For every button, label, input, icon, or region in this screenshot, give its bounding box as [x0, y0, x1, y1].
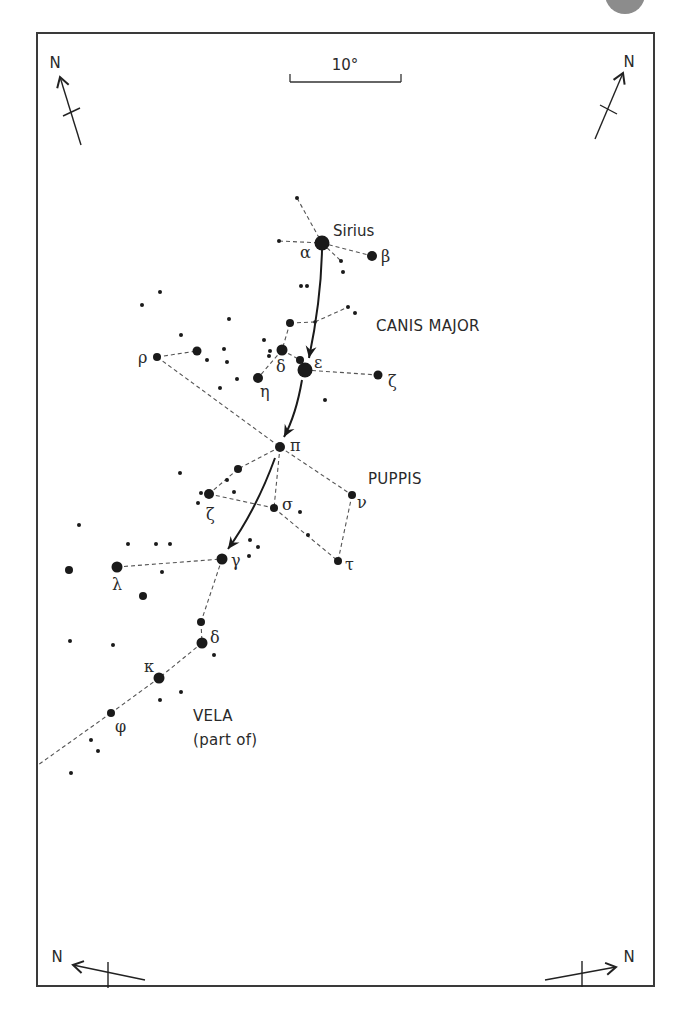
- star-dot: [217, 554, 228, 565]
- north-label: N: [51, 948, 62, 966]
- compass-bottom-left: N: [51, 948, 145, 988]
- star-dot: [267, 354, 271, 358]
- star-dot: [277, 345, 288, 356]
- star-dot: [196, 501, 200, 505]
- star-dot: [178, 471, 182, 475]
- chart-frame: [37, 33, 654, 986]
- star-dot: [89, 738, 93, 742]
- star-designation: ζ: [206, 505, 215, 524]
- star-dot: [197, 638, 208, 649]
- star-designation: π: [290, 436, 301, 455]
- star-dot: [346, 305, 350, 309]
- star-dot: [341, 270, 345, 274]
- star-dot: [296, 356, 304, 364]
- star-designation: σ: [282, 495, 293, 514]
- star-dot: [65, 566, 73, 574]
- star-designation: γ: [231, 551, 241, 570]
- star-dot: [199, 491, 203, 495]
- star-designation: ν: [357, 493, 367, 512]
- compass-top-left: N: [49, 54, 81, 145]
- constellation-line: [297, 198, 322, 243]
- star-dot: [153, 353, 161, 361]
- constellation-name: PUPPIS: [368, 470, 422, 488]
- star-dot: [212, 653, 216, 657]
- constellation-name: CANIS MAJOR: [376, 317, 480, 335]
- star-dot: [158, 290, 162, 294]
- star-dot: [77, 523, 81, 527]
- star-dot: [232, 490, 236, 494]
- north-label: N: [623, 53, 634, 71]
- star-dot: [126, 542, 130, 546]
- star-dot: [348, 491, 356, 499]
- star-dot: [295, 196, 299, 200]
- constellation-name: (part of): [193, 731, 257, 749]
- star-dot: [205, 358, 209, 362]
- constellation-line: [111, 678, 159, 713]
- star-dot: [179, 333, 183, 337]
- star-dot: [306, 533, 310, 537]
- star-dot: [234, 465, 242, 473]
- hop-arrow: [309, 250, 322, 358]
- constellation-line: [238, 447, 280, 469]
- star-dot: [313, 320, 317, 324]
- star-designation: κ: [144, 657, 154, 676]
- star-designation: α: [300, 243, 311, 262]
- star-dot: [235, 377, 239, 381]
- star-dot: [158, 698, 162, 702]
- star-dot: [305, 284, 309, 288]
- constellation-line: [315, 307, 348, 322]
- constellation-line: [117, 559, 222, 567]
- star-dot: [270, 504, 278, 512]
- star-dot: [193, 347, 202, 356]
- star-dot: [197, 618, 205, 626]
- constellation-line: [338, 495, 352, 561]
- scale-label: 10°: [332, 56, 359, 74]
- constellation-line: [209, 494, 274, 508]
- star-dot: [218, 386, 222, 390]
- star-dot: [168, 542, 172, 546]
- star-dot: [298, 363, 313, 378]
- star-dot: [353, 311, 357, 315]
- star-dot: [225, 478, 229, 482]
- constellation-line: [157, 351, 197, 357]
- star-dot: [315, 236, 330, 251]
- star-dot: [256, 545, 260, 549]
- star-dot: [247, 554, 251, 558]
- compass-bottom-right: N: [545, 948, 635, 987]
- constellation-line: [201, 559, 222, 622]
- star-dot: [277, 239, 281, 243]
- star-name-sirius: Sirius: [333, 222, 375, 240]
- star-designation: λ: [112, 575, 122, 594]
- star-dot: [248, 538, 252, 542]
- labels: Sirius αβδεζηρπζσντγλδκφCANIS MAJORPUPPI…: [112, 222, 480, 749]
- star-dot: [204, 489, 214, 499]
- star-dot: [262, 338, 266, 342]
- star-designation: δ: [276, 357, 286, 376]
- corner-ball-decoration: [605, 0, 645, 14]
- star-designation: ρ: [138, 348, 147, 367]
- compass-indicators: NNNN: [49, 53, 634, 988]
- star-dot: [298, 510, 302, 514]
- constellation-line: [274, 508, 338, 561]
- star-dot: [222, 347, 226, 351]
- star-designation: β: [381, 247, 390, 266]
- constellation-line: [274, 447, 280, 508]
- star-dot: [154, 673, 165, 684]
- star-dot: [160, 570, 164, 574]
- star-dot: [374, 371, 383, 380]
- star-dot: [227, 317, 231, 321]
- star-dot: [367, 251, 377, 261]
- star-designation: φ: [115, 717, 126, 736]
- star-designation: τ: [345, 555, 354, 574]
- star-dot: [112, 562, 123, 573]
- constellation-line: [159, 643, 202, 678]
- star-dot: [111, 643, 115, 647]
- star-dot: [154, 542, 158, 546]
- north-label: N: [623, 948, 634, 966]
- star-designation: δ: [210, 628, 220, 647]
- constellation-lines: [38, 198, 378, 765]
- star-designation: ε: [314, 353, 322, 372]
- star-dot: [68, 639, 72, 643]
- compass-top-right: N: [595, 53, 635, 139]
- constellation-line: [157, 357, 280, 447]
